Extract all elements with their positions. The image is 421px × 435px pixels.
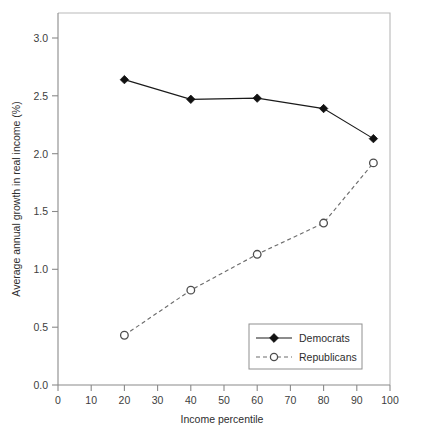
democrats-line	[124, 80, 373, 139]
x-tick-label: 70	[285, 394, 297, 406]
y-axis-ticks: 0.0 0.5 1.0 1.5 2.0 2.5 3.0	[33, 32, 58, 391]
data-point-democrats	[187, 95, 195, 103]
x-axis-ticks: 0 10 20 30 40 50 60 70 80 90 100	[55, 385, 399, 406]
data-point-republicans	[320, 219, 328, 227]
x-tick-label: 60	[251, 394, 263, 406]
data-point-republicans	[121, 331, 129, 339]
line-chart: 0.0 0.5 1.0 1.5 2.0 2.5 3.0 0 10 20 30	[0, 0, 421, 435]
x-tick-label: 20	[119, 394, 131, 406]
data-point-republicans	[370, 159, 378, 167]
series-group	[120, 75, 377, 339]
x-tick-label: 80	[318, 394, 330, 406]
y-tick-label: 1.0	[33, 263, 48, 275]
legend-label-democrats: Democrats	[299, 332, 350, 344]
x-tick-label: 50	[218, 394, 230, 406]
data-point-democrats	[120, 75, 128, 83]
legend-republicans-marker-icon	[270, 353, 277, 360]
y-tick-label: 2.5	[33, 90, 48, 102]
democrats-markers	[120, 75, 377, 142]
republicans-line	[124, 163, 373, 335]
data-point-democrats	[369, 134, 377, 142]
x-axis-title: Income percentile	[181, 413, 264, 425]
republicans-markers	[121, 159, 378, 339]
data-point-democrats	[253, 94, 261, 102]
x-tick-label: 10	[85, 394, 97, 406]
y-tick-label: 1.5	[33, 205, 48, 217]
chart-legend: Democrats Republicans	[249, 324, 362, 369]
x-tick-label: 30	[152, 394, 164, 406]
x-tick-label: 100	[381, 394, 399, 406]
legend-label-republicans: Republicans	[299, 351, 357, 363]
x-tick-label: 90	[351, 394, 363, 406]
y-axis-title: Average annual growth in real income (%)	[10, 101, 22, 296]
y-tick-label: 3.0	[33, 32, 48, 44]
chart-figure: 0.0 0.5 1.0 1.5 2.0 2.5 3.0 0 10 20 30	[0, 0, 421, 435]
data-point-republicans	[253, 251, 261, 259]
data-point-republicans	[187, 286, 195, 294]
x-tick-label: 40	[185, 394, 197, 406]
x-tick-label: 0	[55, 394, 61, 406]
y-tick-label: 2.0	[33, 148, 48, 160]
data-point-democrats	[319, 104, 327, 112]
y-tick-label: 0.0	[33, 379, 48, 391]
y-tick-label: 0.5	[33, 321, 48, 333]
